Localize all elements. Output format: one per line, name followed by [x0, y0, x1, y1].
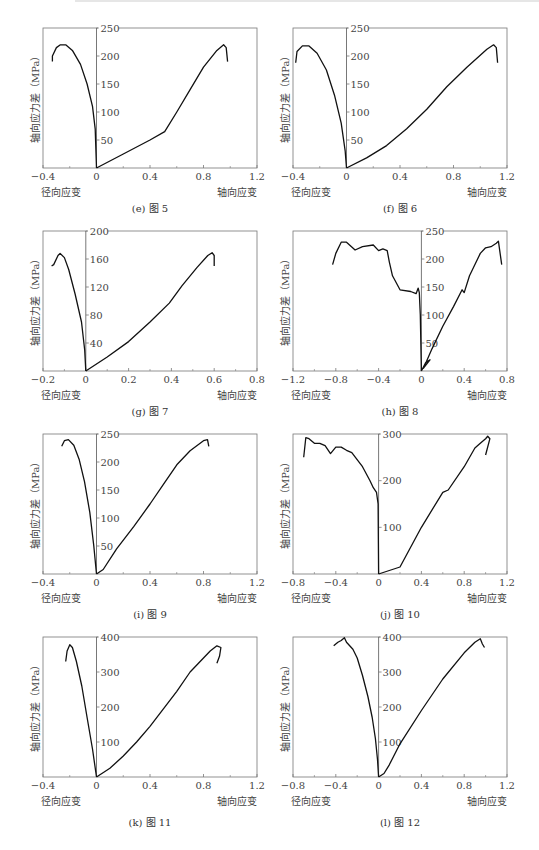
chart-panel-f: −0.400.40.81.250100150200250径向应变轴向应变轴向应力…	[270, 0, 539, 215]
y-tick-label: 200	[101, 457, 120, 468]
chart-panel-e: −0.400.40.81.250100150200250径向应变轴向应变轴向应力…	[0, 0, 269, 215]
x-tick-label: 0	[343, 171, 349, 182]
x-tick-label: 0.4	[142, 577, 158, 588]
y-tick-label: 120	[90, 282, 109, 293]
chart-svg: −0.8−0.400.40.81.2100200300400	[270, 630, 539, 845]
y-axis-label: 轴向应力差（MPa）	[27, 457, 42, 549]
plot-frame	[293, 28, 507, 168]
x-tick-label: 1.2	[499, 780, 515, 791]
y-axis-label: 轴向应力差（MPa）	[27, 51, 42, 143]
x-label-axial: 轴向应变	[467, 793, 507, 808]
chart-caption: (h) 图 8	[360, 403, 440, 418]
y-tick-label: 150	[101, 485, 120, 496]
x-tick-label: 0.8	[446, 171, 462, 182]
x-tick-label: 0.8	[249, 374, 265, 385]
y-axis-label: 轴向应力差（MPa）	[277, 660, 292, 752]
x-tick-label: −1.2	[281, 374, 305, 385]
y-tick-label: 50	[351, 135, 364, 146]
chart-caption: (i) 图 9	[110, 606, 190, 621]
x-tick-label: 1.2	[499, 577, 515, 588]
chart-panel-h: −1.2−0.8−0.400.40.850100150200250径向应变轴向应…	[270, 215, 539, 430]
x-tick-label: 0.4	[413, 780, 429, 791]
y-tick-label: 250	[101, 23, 120, 34]
y-tick-label: 250	[425, 226, 444, 237]
x-tick-label: 0	[375, 780, 381, 791]
x-tick-label: −0.4	[366, 374, 390, 385]
series-line	[296, 46, 347, 168]
series-line	[304, 438, 379, 574]
y-tick-label: 400	[383, 632, 402, 643]
chart-panel-i: −0.400.40.81.250100150200250径向应变轴向应变轴向应力…	[0, 420, 269, 635]
x-tick-label: 0.8	[196, 171, 212, 182]
chart-panel-k: −0.400.40.81.2100200300400径向应变轴向应变轴向应力差（…	[0, 630, 269, 845]
y-tick-label: 50	[101, 541, 114, 552]
series-line	[52, 45, 96, 168]
x-tick-label: 0.8	[456, 780, 472, 791]
x-tick-label: 0	[93, 577, 99, 588]
x-tick-label: −0.2	[31, 374, 55, 385]
y-tick-label: 300	[101, 667, 120, 678]
series-line	[62, 440, 97, 574]
x-tick-label: −0.4	[31, 780, 55, 791]
x-tick-label: 0.4	[392, 171, 408, 182]
x-label-radial: 径向应变	[291, 590, 331, 605]
y-tick-label: 200	[351, 51, 370, 62]
chart-panel-j: −0.8−0.400.40.81.2100200300径向应变轴向应变轴向应力差…	[270, 420, 539, 635]
x-label-radial: 径向应变	[41, 793, 81, 808]
x-tick-label: 0	[93, 171, 99, 182]
x-tick-label: −0.8	[324, 374, 348, 385]
y-tick-label: 100	[383, 522, 402, 533]
y-tick-label: 40	[90, 338, 103, 349]
chart-caption: (e) 图 5	[110, 200, 190, 215]
x-tick-label: 0	[93, 780, 99, 791]
plot-frame	[43, 28, 257, 168]
chart-panel-g: −0.200.20.40.60.84080120160200径向应变轴向应变轴向…	[0, 215, 269, 430]
y-tick-label: 100	[425, 310, 444, 321]
x-tick-label: −0.4	[324, 577, 348, 588]
y-axis-label: 轴向应力差（MPa）	[277, 51, 292, 143]
x-tick-label: 0.4	[456, 374, 472, 385]
x-tick-label: 1.2	[249, 171, 265, 182]
y-tick-label: 200	[101, 51, 120, 62]
x-tick-label: 0.8	[499, 374, 515, 385]
series-line	[334, 638, 379, 777]
x-tick-label: 0.8	[456, 577, 472, 588]
plot-frame	[43, 231, 257, 371]
y-tick-label: 250	[351, 23, 370, 34]
x-label-radial: 径向应变	[291, 793, 331, 808]
x-tick-label: 0.6	[206, 374, 222, 385]
y-tick-label: 300	[383, 429, 402, 440]
x-label-radial: 径向应变	[41, 184, 81, 199]
y-tick-label: 50	[101, 135, 114, 146]
x-label-axial: 轴向应变	[467, 184, 507, 199]
y-tick-label: 300	[383, 667, 402, 678]
y-tick-label: 100	[101, 513, 120, 524]
y-tick-label: 200	[425, 254, 444, 265]
chart-svg: −0.400.40.81.250100150200250	[270, 0, 539, 215]
series-line	[333, 242, 422, 371]
x-label-radial: 径向应变	[41, 590, 81, 605]
x-label-axial: 轴向应变	[217, 184, 257, 199]
chart-panel-l: −0.8−0.400.40.81.2100200300400径向应变轴向应变轴向…	[270, 630, 539, 845]
series-line	[66, 645, 97, 777]
y-tick-label: 160	[90, 254, 109, 265]
chart-caption: (j) 图 10	[360, 606, 440, 621]
x-label-axial: 轴向应变	[217, 590, 257, 605]
y-tick-label: 400	[101, 632, 120, 643]
x-tick-label: 0	[418, 374, 424, 385]
series-line	[86, 253, 214, 371]
x-tick-label: 0.4	[413, 577, 429, 588]
y-tick-label: 100	[351, 107, 370, 118]
y-tick-label: 200	[101, 702, 120, 713]
x-tick-label: 1.2	[499, 171, 515, 182]
y-tick-label: 150	[351, 79, 370, 90]
series-line	[52, 253, 86, 371]
x-tick-label: 0.4	[142, 780, 158, 791]
x-tick-label: 0.4	[142, 171, 158, 182]
y-tick-label: 150	[425, 282, 444, 293]
chart-caption: (l) 图 12	[360, 814, 440, 829]
series-line	[379, 436, 490, 574]
x-label-axial: 轴向应变	[467, 387, 507, 402]
y-axis-label: 轴向应力差（MPa）	[27, 660, 42, 752]
x-label-axial: 轴向应变	[467, 590, 507, 605]
